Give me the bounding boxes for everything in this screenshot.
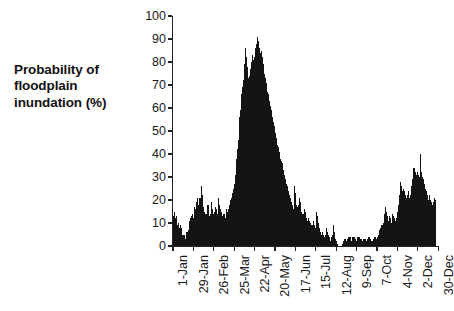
- y-axis-title: Probability of floodplain inundation (%): [14, 62, 146, 111]
- bar: [434, 200, 435, 246]
- y-axis-title-line-2: floodplain: [14, 78, 146, 94]
- y-tick-mark: [168, 84, 173, 85]
- x-tick-mark: [356, 246, 357, 251]
- chart-figure: Probability of floodplain inundation (%)…: [0, 0, 454, 311]
- x-tick-label: 4-Nov: [402, 255, 415, 288]
- y-tick-mark: [168, 199, 173, 200]
- y-tick-mark: [168, 130, 173, 131]
- x-tick-label: 7-Oct: [381, 255, 394, 286]
- x-tick-mark: [376, 246, 377, 251]
- x-tick-label: 20-May: [279, 255, 292, 297]
- y-tick-label: 30: [152, 171, 166, 184]
- x-tick-mark: [254, 246, 255, 251]
- x-tick-mark: [213, 246, 214, 251]
- x-axis-line: [172, 246, 438, 247]
- x-tick-mark: [336, 246, 337, 251]
- y-axis-title-line-3: inundation (%): [14, 95, 146, 111]
- x-tick-mark: [234, 246, 235, 251]
- y-tick-mark: [168, 38, 173, 39]
- y-tick-mark: [168, 15, 173, 16]
- x-tick-label: 15-Jul: [320, 255, 333, 289]
- y-tick-mark: [168, 245, 173, 246]
- y-tick-label: 10: [152, 217, 166, 230]
- y-tick-mark: [168, 176, 173, 177]
- y-tick-label: 100: [145, 10, 166, 23]
- x-tick-label: 30-Dec: [443, 255, 454, 295]
- y-tick-label: 0: [159, 240, 166, 253]
- bar-series: [173, 16, 438, 246]
- y-tick-mark: [168, 153, 173, 154]
- y-tick-label: 20: [152, 194, 166, 207]
- y-tick-label: 60: [152, 102, 166, 115]
- x-tick-label: 25-Mar: [239, 255, 252, 295]
- y-tick-label: 90: [152, 33, 166, 46]
- y-tick-mark: [168, 222, 173, 223]
- y-axis-title-line-1: Probability of: [14, 62, 146, 78]
- x-tick-mark: [397, 246, 398, 251]
- x-tick-label: 26-Feb: [218, 255, 231, 295]
- x-tick-label: 2-Dec: [422, 255, 435, 288]
- y-tick-label: 40: [152, 148, 166, 161]
- x-tick-label: 12-Aug: [341, 255, 354, 295]
- bar: [337, 244, 338, 246]
- plot-area: 0102030405060708090100 1-Jan29-Jan26-Feb…: [172, 16, 438, 246]
- x-tick-mark: [315, 246, 316, 251]
- x-tick-mark: [438, 246, 439, 251]
- x-tick-label: 17-Jun: [300, 255, 313, 293]
- x-tick-mark: [417, 246, 418, 251]
- x-tick-label: 1-Jan: [177, 255, 190, 286]
- y-tick-label: 80: [152, 56, 166, 69]
- x-tick-mark: [172, 246, 173, 251]
- x-tick-label: 9-Sep: [361, 255, 374, 288]
- y-tick-label: 70: [152, 79, 166, 92]
- y-tick-mark: [168, 61, 173, 62]
- x-tick-label: 22-Apr: [259, 255, 272, 293]
- y-tick-mark: [168, 107, 173, 108]
- x-tick-mark: [193, 246, 194, 251]
- y-tick-label: 50: [152, 125, 166, 138]
- x-tick-mark: [295, 246, 296, 251]
- x-tick-label: 29-Jan: [198, 255, 211, 293]
- x-tick-mark: [274, 246, 275, 251]
